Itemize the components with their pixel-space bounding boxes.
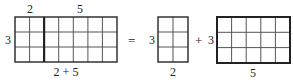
left-grid-bottom-label: 2 + 5 (48, 66, 84, 78)
left-grid-top-label-5: 5 (74, 3, 86, 15)
left-grid (15, 17, 117, 62)
right-grid-side-label: 3 (206, 34, 216, 46)
right-grid-border (217, 17, 290, 63)
middle-grid-side-label: 3 (147, 34, 157, 46)
middle-grid (158, 17, 188, 62)
middle-grid-bottom-label: 2 (167, 66, 179, 78)
left-grid-side-label: 3 (3, 34, 13, 46)
right-grid-bottom-label: 5 (247, 67, 259, 79)
left-grid-border (15, 17, 117, 62)
right-grid (217, 17, 290, 63)
equals-sign: = (128, 34, 135, 47)
plus-sign: + (195, 34, 202, 47)
left-grid-top-label-2: 2 (24, 3, 36, 15)
